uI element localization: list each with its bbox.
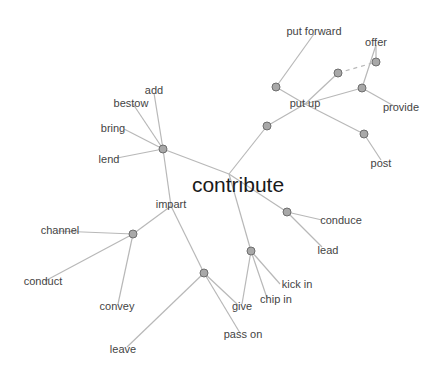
graph-node[interactable] (129, 230, 137, 238)
word-label-give[interactable]: give (232, 301, 252, 312)
word-label-kick-in[interactable]: kick in (282, 279, 313, 290)
edge (276, 34, 314, 87)
edge (154, 93, 163, 149)
graph-node[interactable] (372, 58, 380, 66)
graph-nodes (129, 58, 380, 277)
word-label-pass-on[interactable]: pass on (224, 329, 263, 340)
word-label-put-up[interactable]: put up (290, 98, 321, 109)
graph-node[interactable] (360, 130, 368, 138)
graph-node[interactable] (358, 84, 366, 92)
graph-node[interactable] (283, 208, 291, 216)
word-label-offer[interactable]: offer (365, 37, 387, 48)
word-label-post[interactable]: post (371, 158, 392, 169)
graph-node[interactable] (200, 269, 208, 277)
word-label-channel[interactable]: channel (41, 225, 80, 236)
word-label-conduct[interactable]: conduct (24, 276, 63, 287)
edge (124, 129, 163, 149)
word-label-lead[interactable]: lead (318, 245, 339, 256)
word-label-add[interactable]: add (145, 85, 163, 96)
edge (287, 212, 322, 247)
graph-dashed-edges (338, 62, 376, 73)
word-label-provide[interactable]: provide (383, 102, 419, 113)
edge (251, 251, 280, 284)
edge (127, 273, 204, 347)
edge (338, 62, 376, 73)
edge (118, 234, 133, 304)
edge (229, 126, 267, 174)
edge (287, 212, 322, 220)
word-label-bring[interactable]: bring (101, 123, 125, 134)
edge (133, 104, 163, 149)
word-label-put-forward[interactable]: put forward (286, 26, 341, 37)
edge (362, 45, 376, 88)
graph-node[interactable] (159, 145, 167, 153)
edge (133, 206, 171, 234)
word-label-bestow[interactable]: bestow (114, 98, 149, 109)
word-label-impart[interactable]: impart (156, 199, 187, 210)
graph-node[interactable] (247, 247, 255, 255)
edge (305, 104, 364, 134)
graph-node[interactable] (263, 122, 271, 130)
word-label-lend[interactable]: lend (99, 154, 120, 165)
edge (117, 149, 163, 158)
word-label-convey[interactable]: convey (100, 301, 135, 312)
edge (171, 206, 204, 273)
center-word[interactable]: contribute (192, 174, 284, 195)
edge (163, 149, 229, 174)
word-label-chip-in[interactable]: chip in (260, 294, 292, 305)
graph-node[interactable] (272, 83, 280, 91)
word-label-conduce[interactable]: conduce (320, 215, 362, 226)
word-label-leave[interactable]: leave (110, 344, 136, 355)
edge (251, 251, 267, 298)
edge (242, 251, 251, 304)
graph-node[interactable] (334, 69, 342, 77)
